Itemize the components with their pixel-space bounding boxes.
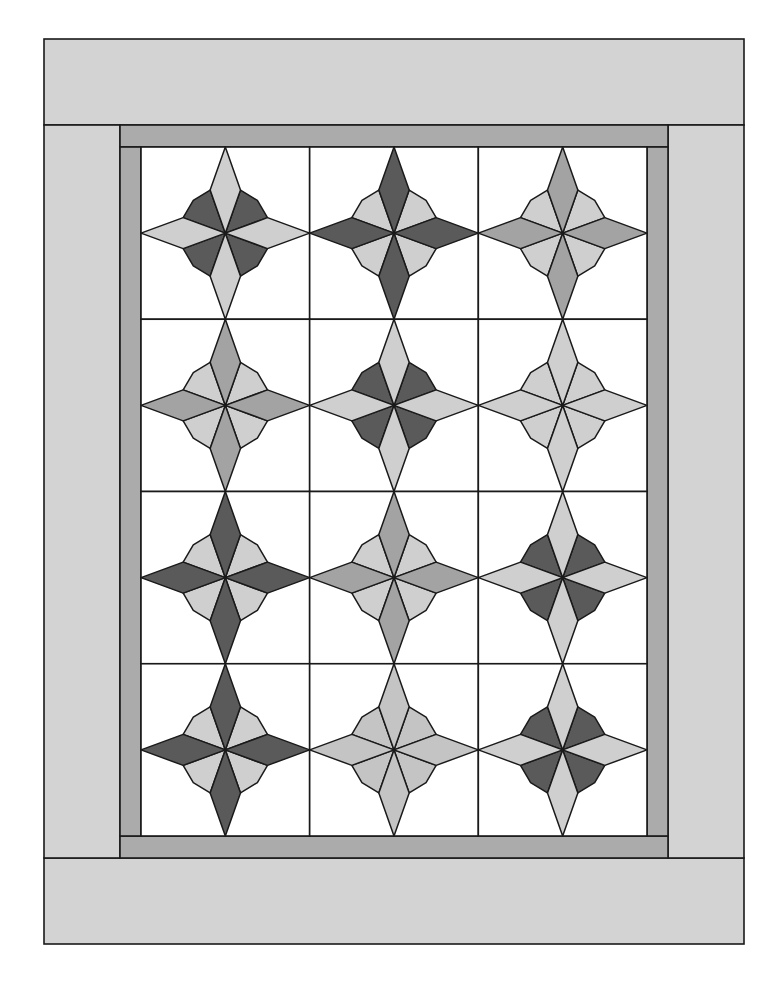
- quilt-block: [141, 147, 310, 319]
- quilt-block: [310, 492, 479, 664]
- quilt-block: [310, 664, 479, 836]
- inner-frame-bottom: [120, 836, 668, 858]
- right-border: [668, 125, 744, 858]
- quilt-block: [478, 492, 647, 664]
- quilt-block: [310, 319, 479, 491]
- quilt-block: [478, 319, 647, 491]
- inner-frame-right: [647, 147, 668, 836]
- inner-frame-left: [120, 147, 141, 836]
- bottom-border: [44, 858, 744, 944]
- quilt-block: [141, 492, 310, 664]
- quilt-block: [141, 319, 310, 491]
- quilt-block: [478, 147, 647, 319]
- quilt-blocks: [141, 147, 647, 836]
- quilt-block: [141, 664, 310, 836]
- quilt-block: [310, 147, 479, 319]
- top-border: [44, 39, 744, 125]
- inner-frame-top: [120, 125, 668, 147]
- quilt-diagram: [0, 0, 782, 988]
- quilt-block: [478, 664, 647, 836]
- left-border: [44, 125, 120, 858]
